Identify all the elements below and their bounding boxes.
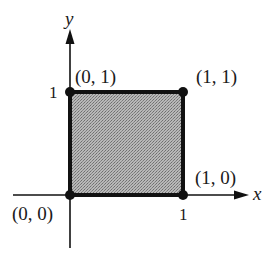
point-origin	[65, 190, 75, 200]
point-label-y-unit: (0, 1)	[75, 66, 116, 88]
point-corner	[178, 87, 188, 97]
x-tick-label: 1	[179, 205, 188, 224]
point-label-corner: (1, 1)	[196, 66, 237, 88]
x-axis-arrow-icon	[234, 191, 249, 200]
point-y-unit	[65, 87, 75, 97]
unit-square-diagram: y x 1 1 (0, 1) (1, 1) (1, 0) (0, 0)	[0, 0, 275, 256]
x-axis-label: x	[252, 183, 262, 204]
y-tick-label: 1	[49, 83, 58, 102]
point-x-unit	[178, 190, 188, 200]
y-axis-arrow-icon	[66, 29, 75, 44]
point-label-origin: (0, 0)	[12, 203, 53, 225]
point-label-x-unit: (1, 0)	[195, 167, 236, 189]
y-axis-label: y	[63, 8, 74, 29]
shaded-square-region	[70, 92, 183, 195]
